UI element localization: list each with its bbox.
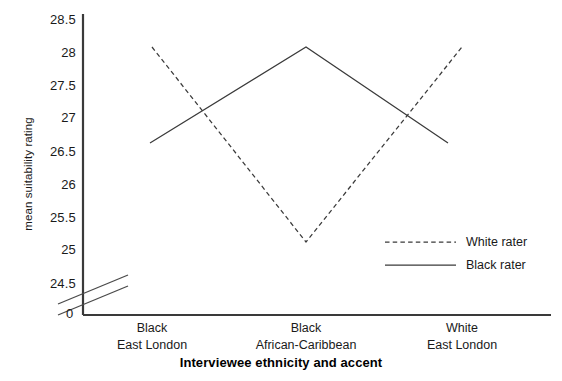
legend-label-white-rater: White rater [466, 235, 527, 249]
y-axis-title: mean suitability rating [22, 94, 34, 254]
ytick-label-0: 28.5 [18, 12, 76, 27]
xtick-label-1-line2: African-Caribbean [236, 337, 376, 354]
xtick-label-0-line1: Black [92, 320, 212, 337]
series-black-rater-line [150, 47, 448, 143]
xtick-label-1: Black African-Caribbean [236, 320, 376, 354]
ytick-label-2: 27.5 [18, 78, 76, 93]
ytick-label-8: 24.5 [18, 276, 76, 291]
x-axis-title: Interviewee ethnicity and accent [0, 355, 562, 370]
legend-label-black-rater: Black rater [466, 258, 526, 272]
xtick-label-2-line1: White [402, 320, 522, 337]
xtick-label-1-line1: Black [236, 320, 376, 337]
ytick-label-zero: 0 [66, 306, 73, 321]
xtick-label-0-line2: East London [92, 337, 212, 354]
xtick-label-2: White East London [402, 320, 522, 354]
ytick-label-1: 28 [18, 45, 76, 60]
line-chart: 28.5 28 27.5 27 26.5 26 25.5 25 24.5 0 m… [0, 0, 562, 381]
series-white-rater-line [152, 47, 462, 242]
xtick-label-0: Black East London [92, 320, 212, 354]
xtick-label-2-line2: East London [402, 337, 522, 354]
